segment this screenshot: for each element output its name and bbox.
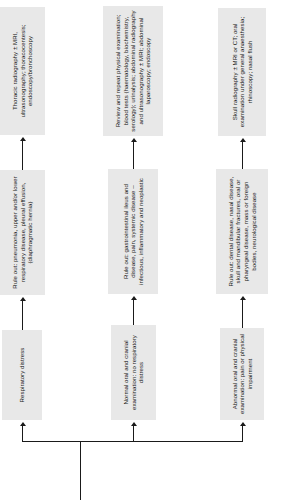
node-abnormal-step-2: Rule out: dental disease, nasal disease,…	[216, 169, 268, 294]
node-label: Normal oral and cranial examination: no …	[122, 328, 145, 417]
flowchart-canvas: Respiratory distress Rule out: pneumonia…	[0, 0, 285, 500]
arrowhead-normal-2	[131, 296, 137, 300]
connector-respiratory-2-3	[22, 140, 23, 170]
arrowhead-abnormal-1	[240, 422, 246, 426]
node-label: Thoracic radiography ± MRI, ultrasonogra…	[11, 10, 34, 132]
node-normal-step-2: Rule out: gastrointestinal ileus and dis…	[108, 169, 158, 294]
node-respiratory-step-3: Thoracic radiography ± MRI, ultrasonogra…	[0, 7, 45, 135]
node-abnormal-step-1: Abnormal oral and cranial examination: p…	[220, 328, 264, 420]
node-label: Rule out: gastrointestinal ileus and dis…	[122, 172, 145, 291]
node-normal-step-1: Normal oral and cranial examination: no …	[111, 325, 156, 420]
node-label: Skull radiography ± MRI or CT; oral exam…	[231, 11, 254, 133]
node-abnormal-step-3: Skull radiography ± MRI or CT; oral exam…	[218, 8, 266, 136]
node-label: Respiratory distress	[18, 333, 26, 417]
arrowhead-respiratory-1	[20, 422, 26, 426]
connector-normal-2-3	[133, 141, 134, 169]
node-respiratory-step-2: Rule out: pneumonia, upper and/or lower …	[0, 170, 45, 295]
arrowhead-respiratory-3	[20, 137, 26, 141]
node-label: Review and repeat physical examination; …	[114, 9, 152, 133]
arrowhead-normal-3	[131, 138, 137, 142]
branch-connector-respiratory	[22, 425, 23, 442]
connector-respiratory-1-2	[22, 300, 23, 330]
connector-abnormal-2-3	[242, 141, 243, 169]
trunk-connector	[80, 441, 81, 500]
connector-normal-1-2	[133, 299, 134, 325]
arrowhead-normal-1	[131, 422, 137, 426]
node-label: Abnormal oral and cranial examination: p…	[231, 331, 254, 417]
arrowhead-respiratory-2	[20, 297, 26, 301]
arrowhead-abnormal-2	[240, 296, 246, 300]
arrowhead-abnormal-3	[240, 138, 246, 142]
branch-connector-normal	[133, 425, 134, 442]
branch-connector-abnormal	[242, 425, 243, 442]
node-label: Rule out: dental disease, nasal disease,…	[227, 172, 257, 291]
node-label: Rule out: pneumonia, upper and/or lower …	[11, 173, 34, 292]
node-normal-step-3: Review and repeat physical examination; …	[103, 6, 163, 136]
connector-abnormal-1-2	[242, 299, 243, 328]
node-respiratory-step-1: Respiratory distress	[2, 330, 42, 420]
